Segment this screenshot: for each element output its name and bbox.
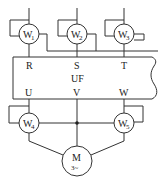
terminal-t: T [121,60,127,71]
converter-label: UF [71,73,84,84]
motor-lead-w [91,133,124,155]
svg-text:M: M [72,152,81,163]
wattmeter-w3: W 3 [114,24,134,44]
converter-box [13,57,157,99]
w3-voltage-loop [134,34,144,40]
terminal-v: V [73,87,81,98]
wattmeter-w4: W 4 [19,113,39,133]
svg-text:3: 3 [126,34,130,42]
terminal-u: U [25,87,33,98]
junction-dot [75,121,79,125]
terminal-r: R [26,60,33,71]
svg-text:1: 1 [31,34,35,42]
wattmeter-w2: W 2 [67,24,87,44]
svg-text:3~: 3~ [71,164,79,172]
w2-voltage-lead [87,34,96,51]
wattmeter-w5: W 5 [114,113,134,133]
terminal-w: W [119,87,129,98]
wattmeter-w1: W 1 [19,24,39,44]
circuit-diagram: W 1 W 2 W 3 R S T UF U V W W 4 W 5 [0,0,164,189]
motor: M 3~ [62,146,92,176]
svg-text:2: 2 [79,34,83,42]
w1-voltage-lead [39,34,47,51]
svg-text:5: 5 [126,123,130,131]
svg-text:4: 4 [31,123,35,131]
motor-lead-u [29,133,63,155]
terminal-s: S [74,60,80,71]
